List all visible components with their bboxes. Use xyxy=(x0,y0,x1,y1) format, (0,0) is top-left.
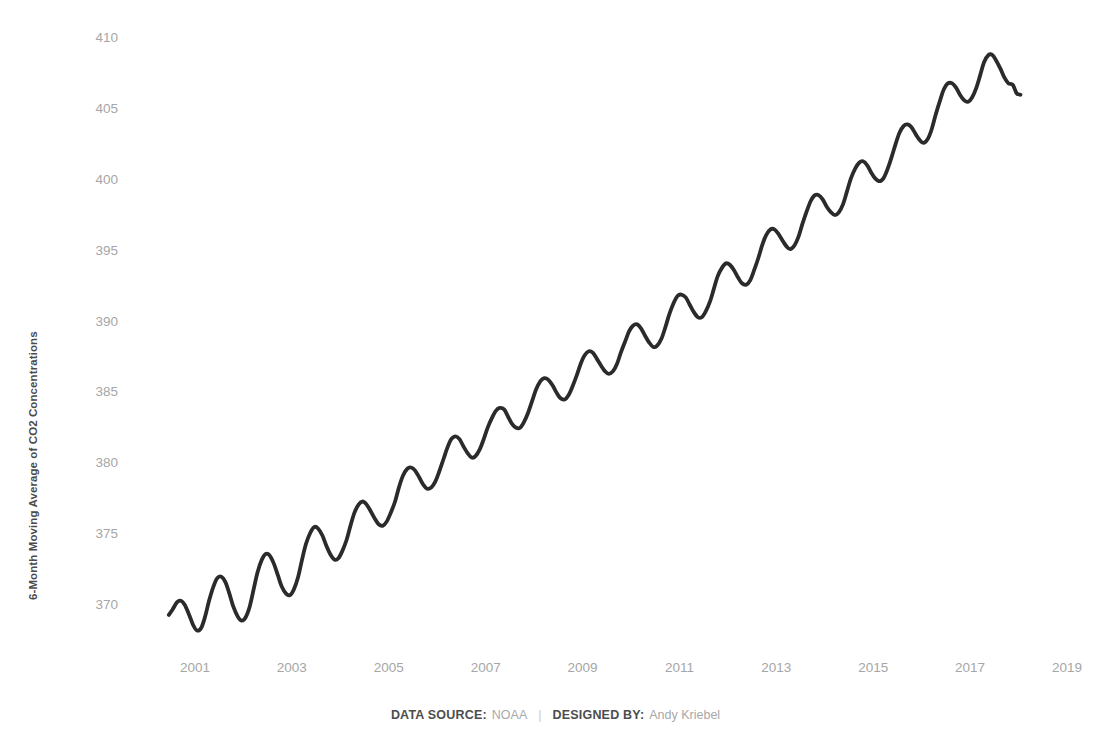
designed-by-label: DESIGNED BY: xyxy=(552,708,644,722)
co2-line-chart: 6-Month Moving Average of CO2 Concentrat… xyxy=(0,0,1111,749)
data-source-label: DATA SOURCE: xyxy=(391,708,487,722)
designed-by-value: Andy Kriebel xyxy=(649,708,720,722)
co2-series-line xyxy=(169,54,1021,630)
plot-area xyxy=(0,0,1111,749)
footer-caption: DATA SOURCE:NOAA|DESIGNED BY:Andy Kriebe… xyxy=(0,706,1111,724)
footer-separator: | xyxy=(527,708,552,722)
data-source-value: NOAA xyxy=(492,708,527,722)
